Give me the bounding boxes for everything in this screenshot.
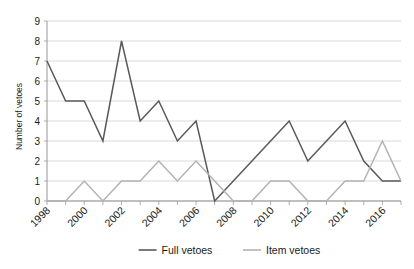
y-tick-label-6: 6 <box>34 76 40 87</box>
y-axis <box>44 21 47 201</box>
x-tick-label-2010: 2010 <box>251 204 276 229</box>
y-tick-label-3: 3 <box>34 136 40 147</box>
gridlines <box>47 21 401 201</box>
y-tick-label-5: 5 <box>34 96 40 107</box>
y-tick-label-9: 9 <box>34 16 40 27</box>
chart-container: 0123456789 19982000200220042006200820102… <box>0 0 414 269</box>
x-tick-label-2012: 2012 <box>288 204 313 229</box>
veto-line-chart: 0123456789 19982000200220042006200820102… <box>0 0 414 269</box>
legend-label-full-vetoes: Full vetoes <box>162 244 213 256</box>
x-tick-label-2000: 2000 <box>65 204 90 229</box>
y-tick-label-0: 0 <box>34 196 40 207</box>
x-tick-label-2014: 2014 <box>326 204 351 229</box>
series-line-item-vetoes <box>47 141 401 201</box>
x-axis-tick-labels: 1998200020022004200620082010201220142016 <box>27 204 387 229</box>
y-tick-label-8: 8 <box>34 36 40 47</box>
y-axis-tick-labels: 0123456789 <box>34 16 40 207</box>
x-tick-label-2002: 2002 <box>102 204 127 229</box>
y-axis-title-text: Number of vetoes <box>14 83 24 150</box>
chart-legend: Full vetoesItem vetoes <box>139 244 321 256</box>
x-tick-label-1998: 1998 <box>27 204 52 229</box>
x-tick-label-2008: 2008 <box>214 204 239 229</box>
y-tick-label-2: 2 <box>34 156 40 167</box>
x-tick-label-2016: 2016 <box>363 204 388 229</box>
x-tick-label-2004: 2004 <box>139 204 164 229</box>
x-axis <box>47 201 401 205</box>
y-tick-label-1: 1 <box>34 176 40 187</box>
y-tick-label-7: 7 <box>34 56 40 67</box>
x-tick-label-2006: 2006 <box>176 204 201 229</box>
y-tick-label-4: 4 <box>34 116 40 127</box>
y-axis-title: Number of vetoes <box>14 83 24 150</box>
legend-label-item-vetoes: Item vetoes <box>266 244 320 256</box>
